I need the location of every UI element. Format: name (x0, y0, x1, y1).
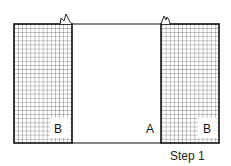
diagram-canvas (0, 0, 231, 166)
step-caption: Step 1 (170, 150, 205, 162)
label-a-center: A (146, 123, 154, 135)
label-b-right: B (203, 123, 211, 135)
left-panel-b (14, 24, 72, 143)
notch-marker-right (161, 16, 170, 24)
notch-marker-left (60, 14, 72, 24)
label-b-left: B (54, 123, 62, 135)
